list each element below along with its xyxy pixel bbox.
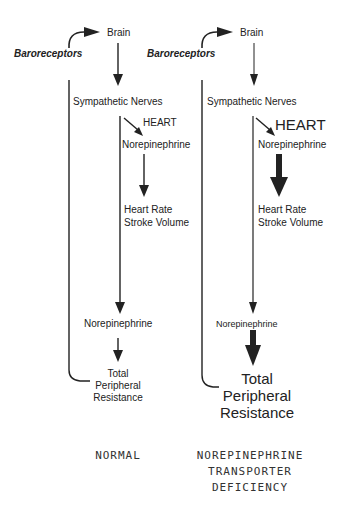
brain-label-normal: Brain: [107, 27, 130, 39]
baroreceptors-label-deficiency: Baroreceptors: [147, 48, 215, 60]
tpr-line2-normal: Peripheral: [88, 380, 148, 392]
baroreceptors-label-normal: Baroreceptors: [14, 48, 82, 60]
heart-label-deficiency: HEART: [275, 117, 326, 133]
brain-label-deficiency: Brain: [240, 27, 263, 39]
tpr-line3-deficiency: Resistance: [212, 405, 302, 421]
heart-label-normal: HEART: [143, 117, 177, 129]
caption-deficiency-line1: NOREPINEPHRINE: [180, 448, 320, 463]
norepinephrine-heart-label-normal: Norepinephrine: [122, 139, 190, 151]
stroke-volume-label-deficiency: Stroke Volume: [258, 217, 323, 229]
norepinephrine-vessel-label-normal: Norepinephrine: [84, 318, 152, 330]
heart-rate-label-normal: Heart Rate: [124, 204, 172, 216]
caption-deficiency-line2: TRANSPORTER: [180, 464, 320, 479]
caption-deficiency-line3: DEFICIENCY: [180, 480, 320, 495]
stroke-volume-label-normal: Stroke Volume: [124, 217, 189, 229]
norepinephrine-heart-label-deficiency: Norepinephrine: [258, 139, 326, 151]
tpr-line1-normal: Total: [88, 368, 148, 380]
norepinephrine-vessel-label-deficiency: Norepinephrine: [216, 318, 278, 330]
sympathetic-nerves-label-normal: Sympathetic Nerves: [73, 96, 162, 108]
caption-normal: NORMAL: [78, 448, 158, 463]
diagram-arrows: [0, 0, 352, 523]
sympathetic-nerves-label-deficiency: Sympathetic Nerves: [207, 96, 296, 108]
tpr-line3-normal: Resistance: [88, 392, 148, 404]
tpr-line2-deficiency: Peripheral: [212, 388, 302, 404]
heart-rate-label-deficiency: Heart Rate: [258, 204, 306, 216]
tpr-line1-deficiency: Total: [212, 371, 302, 387]
